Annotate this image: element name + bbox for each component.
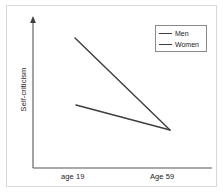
legend-label-women: Women [175,39,199,50]
x-tick-label-age-59: Age 59 [150,172,174,181]
x-tick-label-age-19: age 19 [61,172,85,181]
legend-line-swatch-women [159,44,172,45]
y-axis-arrow-icon [30,16,36,23]
legend-label-men: Men [175,28,189,39]
legend-item-women: Women [159,39,203,50]
legend-item-men: Men [159,28,203,39]
chart-legend: Men Women [155,25,207,52]
series-line-women [76,105,170,130]
y-axis-label: Self-criticism [19,45,28,135]
chart-figure: Self-criticism age 19 Age 59 Men Women [0,0,223,193]
legend-line-swatch-men [159,33,172,34]
